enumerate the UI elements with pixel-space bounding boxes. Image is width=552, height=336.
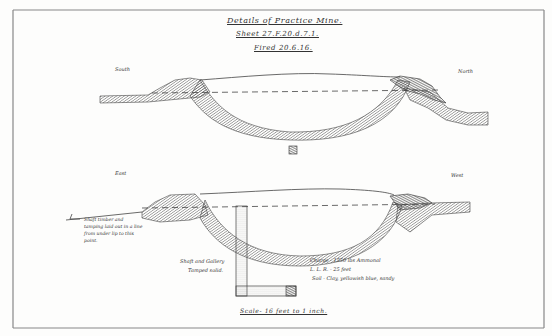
drawing-frame (13, 10, 544, 328)
label-south: South (115, 66, 130, 72)
charge-chamber-marker (289, 146, 297, 154)
tamped-solid-label: Tamped solid. (188, 267, 223, 273)
label-east: East (115, 170, 126, 176)
fired-date: Fired 20.6.16. (254, 44, 313, 52)
drawing-sheet: Details of Practice Mine. Sheet 27.F.20.… (0, 0, 552, 336)
llr-spec: L. L. R. - 25 feet (310, 266, 351, 272)
drawing-title: Details of Practice Mine. (227, 16, 342, 25)
soil-spec: Soil - Clay, yellowish blue, sandy (312, 275, 394, 281)
shaft-timber-note: Shaft timber and tamping laid out in a l… (84, 216, 144, 244)
scale-label: Scale- 16 feet to 1 inch. (240, 307, 327, 314)
shaft-gallery-label: Shaft and Gallery (180, 258, 224, 264)
label-north: North (458, 68, 473, 74)
upper-section-profile (100, 74, 488, 141)
charge-spec: Charge - 1550 lbs Ammonal (310, 257, 381, 263)
sheet-reference: Sheet 27.F.20.d.7.1. (236, 30, 319, 38)
label-west: West (451, 172, 463, 178)
